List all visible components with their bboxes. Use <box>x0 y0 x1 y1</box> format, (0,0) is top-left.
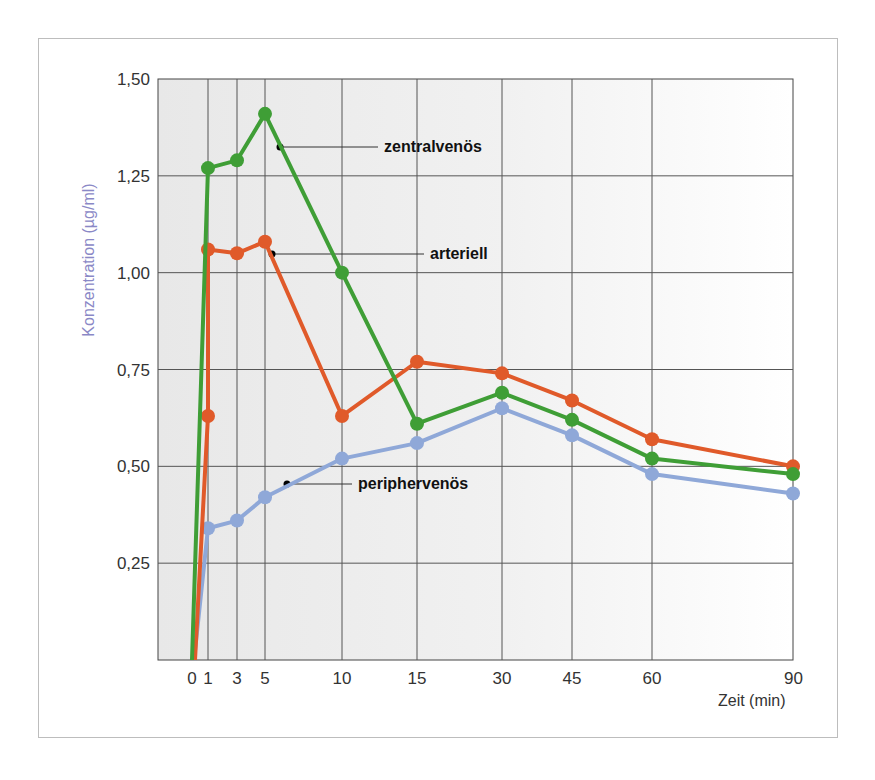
data-point <box>565 393 579 407</box>
x-tick-label: 1 <box>203 669 212 688</box>
data-point <box>565 413 579 427</box>
concentration-chart: 0,250,500,751,001,251,50 013510153045609… <box>0 0 875 780</box>
y-tick-label: 1,50 <box>117 70 150 89</box>
data-point <box>230 246 244 260</box>
label-periphervenoes: periphervenös <box>358 475 468 492</box>
y-tick-label: 0,25 <box>117 554 150 573</box>
y-axis-label: Konzentration (µg/ml) <box>80 183 97 336</box>
data-point <box>410 417 424 431</box>
data-point <box>565 428 579 442</box>
data-point <box>645 452 659 466</box>
data-point <box>335 266 349 280</box>
data-point <box>786 486 800 500</box>
x-tick-label: 60 <box>643 669 662 688</box>
data-point <box>335 452 349 466</box>
y-axis-ticks: 0,250,500,751,001,251,50 <box>117 70 150 573</box>
data-point <box>258 235 272 249</box>
data-point <box>258 107 272 121</box>
x-tick-label: 3 <box>232 669 241 688</box>
data-point <box>786 467 800 481</box>
x-tick-label: 45 <box>563 669 582 688</box>
data-point <box>201 242 215 256</box>
data-point <box>645 432 659 446</box>
data-point <box>201 161 215 175</box>
y-tick-label: 0,50 <box>117 457 150 476</box>
x-tick-label: 90 <box>784 669 803 688</box>
x-tick-label: 15 <box>408 669 427 688</box>
data-point <box>495 366 509 380</box>
data-point <box>335 409 349 423</box>
data-point <box>645 467 659 481</box>
data-point <box>410 355 424 369</box>
y-tick-label: 1,00 <box>117 264 150 283</box>
x-axis-ticks: 0135101530456090 <box>187 669 803 688</box>
y-tick-label: 0,75 <box>117 361 150 380</box>
data-point <box>258 490 272 504</box>
y-tick-label: 1,25 <box>117 167 150 186</box>
x-axis-label: Zeit (min) <box>718 692 786 709</box>
x-tick-label: 5 <box>260 669 269 688</box>
data-point <box>495 386 509 400</box>
data-point <box>230 153 244 167</box>
data-point <box>230 514 244 528</box>
x-tick-label: 10 <box>333 669 352 688</box>
label-zentralvenoes: zentralvenös <box>384 138 482 155</box>
x-tick-label: 30 <box>493 669 512 688</box>
data-point <box>495 401 509 415</box>
data-point <box>201 409 215 423</box>
label-arteriell: arteriell <box>430 245 488 262</box>
data-point <box>410 436 424 450</box>
x-tick-label: 0 <box>187 669 196 688</box>
